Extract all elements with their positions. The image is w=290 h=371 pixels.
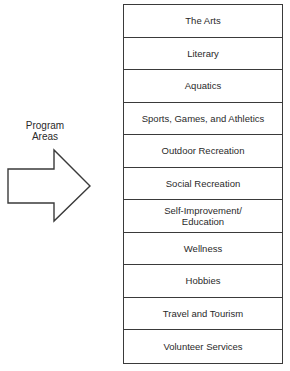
program-area-aquatics: Aquatics [124,70,282,103]
block-arrow-right-icon [0,0,100,371]
program-area-social-recreation: Social Recreation [124,168,282,201]
program-area-the-arts: The Arts [124,5,282,38]
program-area-self-improvement: Self-Improvement/ Education [124,200,282,233]
program-area-travel-tourism: Travel and Tourism [124,298,282,331]
program-area-hobbies: Hobbies [124,265,282,298]
program-area-literary: Literary [124,38,282,71]
program-area-outdoor-recreation: Outdoor Recreation [124,135,282,168]
program-area-wellness: Wellness [124,233,282,266]
program-areas-list: The Arts Literary Aquatics Sports, Games… [123,4,283,364]
program-area-sports: Sports, Games, and Athletics [124,103,282,136]
program-area-volunteer-services: Volunteer Services [124,330,282,363]
